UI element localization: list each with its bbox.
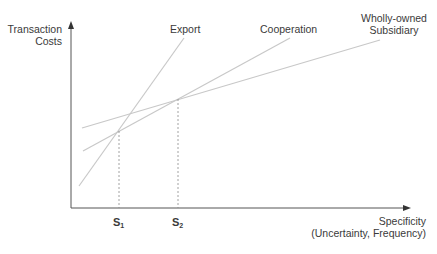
y-axis-label: Transaction Costs [4,23,62,47]
curve-label-cooperation: Cooperation [260,23,317,35]
x-axis-label-line2: (Uncertainty, Frequency) [296,227,426,239]
x-axis-label: Specificity (Uncertainty, Frequency) [296,215,426,239]
y-axis-label-line1: Transaction [4,23,62,35]
threshold-label-s1-subscript: 1 [120,222,124,229]
curve-label-export: Export [170,23,200,35]
curve-cooperation [83,38,290,151]
y-axis-arrow-icon [68,21,74,29]
y-axis-label-line2: Costs [4,35,62,47]
curve-export [79,38,184,186]
curve-wholly-owned [82,40,380,128]
curve-label-wholly-owned-line1: Wholly-owned [352,12,436,24]
threshold-label-s2-subscript: 2 [179,222,183,229]
transaction-cost-diagram: Transaction Costs Export Cooperation Who… [0,0,437,254]
x-axis-arrow-icon [403,205,411,211]
curve-label-wholly-owned: Wholly-owned Subsidiary [352,12,436,36]
x-axis-label-line1: Specificity [296,215,426,227]
curve-label-wholly-owned-line2: Subsidiary [352,24,436,36]
threshold-label-s1: S1 [113,216,124,229]
threshold-label-s2: S2 [172,216,183,229]
